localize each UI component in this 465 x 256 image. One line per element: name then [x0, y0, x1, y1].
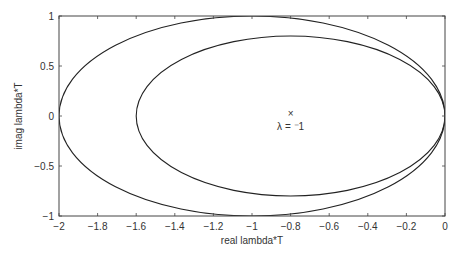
series-0-curve	[59, 16, 445, 216]
y-tick-label: 1	[48, 11, 54, 22]
x-tick-label: −1.2	[204, 221, 224, 232]
x-tick-label: −0.2	[397, 221, 417, 232]
x-tick-label: 0	[442, 221, 448, 232]
y-tick-label: −1	[43, 211, 55, 222]
x-tick-label: −0.6	[319, 221, 339, 232]
y-tick-label: 0	[48, 111, 54, 122]
x-tick-label: −1.4	[165, 221, 185, 232]
lambda-annotation: λ = ⁻1	[277, 121, 304, 132]
x-tick-label: −2	[53, 221, 65, 232]
chart-root: −2−1.8−1.6−1.4−1.2−1−0.8−0.6−0.4−0.2010.…	[0, 0, 465, 256]
y-tick-label: −0.5	[34, 161, 54, 172]
x-tick-label: −1	[246, 221, 258, 232]
x-tick-label: −1.8	[88, 221, 108, 232]
x-tick-label: −0.4	[358, 221, 378, 232]
x-tick-label: −0.8	[281, 221, 301, 232]
x-tick-label: −1.6	[126, 221, 146, 232]
eigenvalue-marker: ×	[288, 108, 294, 119]
y-tick-label: 0.5	[40, 61, 54, 72]
x-axis-label: real lambda*T	[221, 235, 283, 246]
plot-frame	[59, 16, 445, 216]
y-axis-label: imag lambda*T	[13, 82, 24, 149]
